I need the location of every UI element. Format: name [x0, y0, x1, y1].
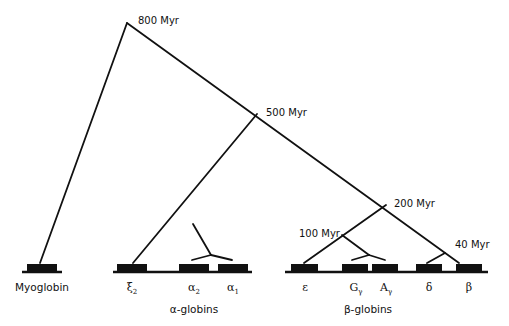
branch-g-gamma [352, 255, 369, 260]
node-label-800: 800 Myr [138, 16, 179, 26]
gene-label-myoglobin: Myoglobin [15, 282, 69, 293]
gene-myoglobin [27, 264, 57, 272]
gene-label-alpha1: α1 [227, 282, 239, 296]
branch-alpha2 [192, 255, 211, 260]
node-label-500: 500 Myr [266, 108, 307, 118]
gene-alpha2 [179, 264, 209, 272]
branch-alpha-split [193, 224, 211, 255]
gene-label-a-gamma: Aγ [380, 282, 392, 296]
gene-label-alpha2: α2 [188, 282, 200, 296]
branch-gamma-split [342, 235, 369, 255]
branch-root-myoglobin [40, 23, 127, 263]
globin-tree-diagram [0, 0, 509, 326]
tree-branches [40, 23, 459, 263]
cluster-label-alpha-globins: α-globins [170, 304, 218, 315]
branch-alpha1 [211, 255, 232, 260]
gene-label-g-gamma: Gγ [350, 282, 363, 296]
gene-epsilon [291, 264, 318, 272]
node-label-200: 200 Myr [394, 199, 435, 209]
gene-label-xi2: ξ2 [127, 282, 138, 296]
cluster-label-beta-globins: β-globins [344, 304, 392, 315]
gene-alpha1 [218, 264, 248, 272]
node-label-40: 40 Myr [455, 240, 490, 250]
gene-label-beta: β [466, 282, 472, 293]
branch-a-gamma [369, 255, 385, 260]
branch-500-xi2 [133, 114, 257, 263]
gene-a-gamma [372, 264, 398, 272]
gene-beta [456, 264, 482, 272]
gene-xi2 [117, 264, 147, 272]
gene-label-delta: δ [426, 282, 433, 293]
gene-g-gamma [342, 264, 368, 272]
branch-40-delta [427, 253, 445, 263]
gene-label-epsilon: ε [302, 282, 308, 293]
branch-root-beta [127, 23, 459, 263]
node-label-100: 100 Myr [299, 229, 340, 239]
gene-delta [416, 264, 442, 272]
